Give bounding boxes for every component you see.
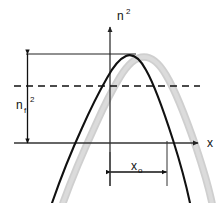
x-axis-label: x <box>207 136 213 150</box>
y-axis-label-exponent: 2 <box>126 7 131 16</box>
nf-squared-label-base: n <box>16 98 23 112</box>
y-axis-label-base: n <box>117 9 124 23</box>
nf-squared-label-exponent: 2 <box>30 95 35 104</box>
figure-container: n 2 x n f 2 x o <box>0 0 223 203</box>
xo-label-subscript: o <box>138 166 143 175</box>
xo-label-base: x <box>131 159 137 173</box>
parabolic-index-profile-figure: n 2 x n f 2 x o <box>0 0 223 203</box>
